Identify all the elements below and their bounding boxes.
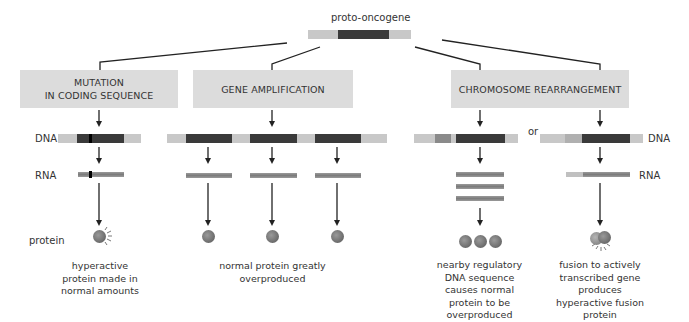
- rna-regulatory-3: [456, 196, 504, 201]
- caption-regulatory: nearby regulatory DNA sequence causes no…: [432, 259, 527, 322]
- hyperactive-protein-icon: [93, 230, 106, 243]
- hyperactive-rays-icon: [105, 227, 610, 251]
- diagram-title: proto-oncogene: [331, 12, 410, 23]
- caption-amplification: normal protein greatly overproduced: [210, 260, 335, 285]
- box-gene-amplification: GENE AMPLIFICATION: [193, 70, 353, 108]
- rna-amplified-3: [315, 173, 361, 178]
- or-label: or: [528, 126, 538, 137]
- label-dna-left: DNA: [35, 133, 57, 144]
- protein-icon: [331, 230, 344, 243]
- caption-fusion: fusion to actively transcribed gene prod…: [550, 259, 650, 322]
- rna-regulatory-1: [456, 172, 504, 177]
- caption-mutation: hyperactive protein made in normal amoun…: [54, 260, 146, 298]
- label-protein: protein: [29, 235, 65, 246]
- protein-icon: [459, 235, 472, 248]
- protein-icon: [202, 230, 215, 243]
- label-rna-right: RNA: [639, 170, 660, 181]
- label-dna-right: DNA: [648, 133, 670, 144]
- rna-amplified-1: [186, 173, 232, 178]
- box-chromosome-rearrangement: CHROMOSOME REARRANGEMENT: [451, 70, 629, 108]
- protein-icon: [266, 230, 279, 243]
- protein-icon: [474, 235, 487, 248]
- label-rna-left: RNA: [35, 170, 56, 181]
- hyperactive-fusion-protein-icon: [598, 231, 611, 244]
- rna-regulatory-2: [456, 184, 504, 189]
- rna-amplified-2: [250, 173, 297, 178]
- protein-icon: [489, 235, 502, 248]
- box-mutation: MUTATIONIN CODING SEQUENCE: [20, 70, 178, 108]
